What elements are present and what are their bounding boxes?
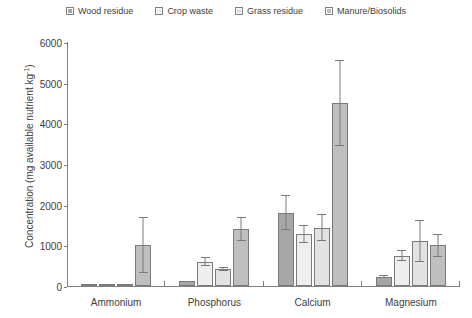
- bar-slot[interactable]: [332, 42, 348, 286]
- bar-slot[interactable]: [376, 42, 392, 286]
- bar-slot[interactable]: [430, 42, 446, 286]
- error-bar: [303, 225, 304, 244]
- error-cap-top: [379, 275, 388, 276]
- error-cap-top: [237, 217, 246, 218]
- bar-groups: AmmoniumPhosphorusCalciumMagnesium: [67, 42, 460, 286]
- y-axis-title: Concentration (mg available nutrient kg-…: [23, 41, 35, 271]
- x-axis-label-ammonium: Ammonium: [67, 297, 165, 308]
- error-bar: [143, 217, 144, 273]
- bar-group-magnesium: Magnesium: [362, 42, 460, 286]
- bar-slot[interactable]: [81, 42, 97, 286]
- legend-swatch-icon: [155, 7, 163, 15]
- error-cap-bottom: [299, 242, 308, 243]
- x-axis-label-phosphorus: Phosphorus: [165, 297, 263, 308]
- error-cap-bottom: [397, 260, 406, 261]
- error-cap-top: [317, 214, 326, 215]
- bar-chart: Wood residueCrop wasteGrass residueManur…: [0, 0, 472, 318]
- error-cap-top: [433, 234, 442, 235]
- error-cap-bottom: [139, 272, 148, 273]
- error-bar: [383, 275, 384, 278]
- plot-area: 0100020003000400050006000 AmmoniumPhosph…: [67, 42, 460, 287]
- bar-slot[interactable]: [278, 42, 294, 286]
- error-bar: [401, 250, 402, 261]
- error-cap-top: [335, 60, 344, 61]
- legend-item-2[interactable]: Grass residue: [235, 6, 303, 16]
- legend-label: Crop waste: [167, 6, 213, 16]
- error-cap-bottom: [237, 240, 246, 241]
- x-axis-label-calcium: Calcium: [264, 297, 362, 308]
- legend-label: Manure/Biosolids: [337, 6, 406, 16]
- bar-group-ammonium: Ammonium: [67, 42, 165, 286]
- bar-slot[interactable]: [179, 42, 195, 286]
- x-axis-label-magnesium: Magnesium: [362, 297, 460, 308]
- error-cap-bottom: [379, 277, 388, 278]
- bar-ammonium-2[interactable]: [117, 284, 133, 286]
- error-cap-top: [219, 267, 228, 268]
- error-cap-top: [139, 217, 148, 218]
- x-axis-tick-mark: [459, 281, 460, 286]
- error-cap-bottom: [415, 261, 424, 262]
- chart-legend: Wood residueCrop wasteGrass residueManur…: [0, 6, 472, 16]
- error-cap-top: [281, 195, 290, 196]
- error-cap-bottom: [433, 256, 442, 257]
- error-cap-bottom: [219, 270, 228, 271]
- legend-item-0[interactable]: Wood residue: [66, 6, 133, 16]
- bar-phosphorus-0[interactable]: [179, 281, 195, 286]
- error-cap-bottom: [317, 240, 326, 241]
- error-bar: [205, 257, 206, 266]
- legend-label: Grass residue: [247, 6, 303, 16]
- error-bar: [419, 220, 420, 262]
- bar-slot[interactable]: [233, 42, 249, 286]
- error-cap-top: [415, 220, 424, 221]
- y-axis-tick-label: 2000: [40, 200, 67, 211]
- error-cap-bottom: [335, 145, 344, 146]
- bar-slot[interactable]: [197, 42, 213, 286]
- legend-swatch-icon: [235, 7, 243, 15]
- error-bar: [321, 214, 322, 241]
- bar-slot[interactable]: [296, 42, 312, 286]
- y-axis-tick-label: 1000: [40, 241, 67, 252]
- bar-phosphorus-2[interactable]: [215, 269, 231, 286]
- bar-group-calcium: Calcium: [264, 42, 362, 286]
- error-bar: [285, 195, 286, 230]
- error-bar: [223, 267, 224, 271]
- error-cap-bottom: [281, 229, 290, 230]
- error-bar: [437, 234, 438, 257]
- bar-slot[interactable]: [99, 42, 115, 286]
- y-axis-tick-label: 6000: [40, 38, 67, 49]
- y-axis-tick-mark: [64, 287, 67, 288]
- y-axis-tick-label: 5000: [40, 78, 67, 89]
- bar-slot[interactable]: [314, 42, 330, 286]
- error-cap-top: [299, 225, 308, 226]
- legend-swatch-icon: [66, 7, 74, 15]
- bar-slot[interactable]: [394, 42, 410, 286]
- bar-slot[interactable]: [412, 42, 428, 286]
- bar-ammonium-1[interactable]: [99, 284, 115, 286]
- bar-slot[interactable]: [215, 42, 231, 286]
- bar-ammonium-0[interactable]: [81, 284, 97, 286]
- legend-label: Wood residue: [78, 6, 133, 16]
- error-bar: [339, 60, 340, 145]
- bar-slot[interactable]: [135, 42, 151, 286]
- bar-slot[interactable]: [117, 42, 133, 286]
- legend-item-1[interactable]: Crop waste: [155, 6, 213, 16]
- y-axis-tick-label: 3000: [40, 160, 67, 171]
- legend-swatch-icon: [325, 7, 333, 15]
- legend-item-3[interactable]: Manure/Biosolids: [325, 6, 406, 16]
- error-cap-bottom: [201, 265, 210, 266]
- error-cap-top: [397, 250, 406, 251]
- bar-group-phosphorus: Phosphorus: [165, 42, 263, 286]
- x-axis-line: [67, 286, 460, 287]
- error-cap-top: [201, 257, 210, 258]
- error-bar: [241, 217, 242, 241]
- y-axis-tick-label: 4000: [40, 119, 67, 130]
